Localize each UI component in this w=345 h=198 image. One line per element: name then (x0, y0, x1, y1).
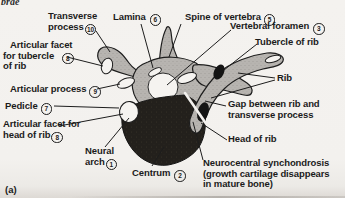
label-text: Head of rib (228, 133, 277, 144)
label-transverse-process: Transverse process10 (48, 11, 97, 32)
label-text: Tubercle of rib (255, 36, 319, 47)
label-rib: Rib (277, 73, 292, 84)
label-lamina: Lamina6 (113, 12, 161, 23)
label-vertebral-foramen: Vertebral foramen3 (230, 21, 325, 32)
label-text: Articular process (10, 83, 86, 94)
label-text: in mature bone) (203, 178, 273, 189)
label-articular-process: Articular process9 (10, 84, 101, 95)
label-gap-rib-transverse: Gap between rib and transverse process (228, 99, 320, 120)
scan-shadow (70, 196, 345, 198)
label-text: (growth cartilage disappears (203, 168, 330, 179)
label-text: Vertebral foramen (230, 20, 309, 31)
leader-lamina (141, 24, 153, 68)
panel-letter: (a) (5, 184, 17, 195)
circled-number-3: 3 (313, 23, 325, 35)
label-articular-facet-head: Articular facet for head of rib8 (3, 119, 80, 140)
label-text: of rib (3, 60, 26, 71)
circled-number-8: 8 (51, 132, 63, 144)
label-articular-facet-tubercle: Articular facet for tubercle8 of rib (3, 40, 74, 72)
label-text: for tubercle (3, 50, 54, 61)
label-text: Articular facet (10, 39, 72, 50)
circled-number-9: 9 (89, 86, 101, 98)
label-centrum: Centrum2 (132, 168, 186, 179)
page-text-fragment: brae (1, 0, 19, 7)
label-head-of-rib: Head of rib (228, 134, 277, 145)
label-neural-arch: Neural arch1 (85, 146, 117, 167)
label-text: Transverse (48, 10, 97, 21)
leader-pedicle (54, 106, 119, 108)
label-text: Pedicle (5, 100, 38, 111)
label-text: arch (85, 156, 105, 167)
circled-number-8: 8 (62, 53, 74, 65)
label-text: Centrum (132, 167, 170, 178)
circled-number-6: 6 (150, 14, 162, 26)
label-neurocentral-synchondrosis: Neurocentral synchondrosis (growth carti… (203, 158, 330, 190)
label-text: Neurocentral synchondrosis (203, 157, 329, 168)
label-pedicle: Pedicle7 (5, 101, 52, 112)
label-text: head of rib (3, 129, 50, 140)
label-text: Neural (85, 145, 114, 156)
circled-number-7: 7 (41, 103, 53, 115)
label-text: Gap between rib and (228, 98, 320, 109)
circled-number-2: 2 (174, 170, 186, 182)
circled-number-1: 1 (106, 159, 118, 171)
label-text: transverse process (228, 109, 313, 120)
label-tubercle-of-rib: Tubercle of rib (255, 37, 319, 48)
label-text: Articular facet for (3, 118, 80, 129)
vertebra-figure: brae Transverse process10 Lamina6 Spine … (0, 0, 345, 198)
label-text: Rib (277, 72, 292, 83)
label-text: process (48, 21, 84, 32)
label-text: Lamina (113, 11, 146, 22)
